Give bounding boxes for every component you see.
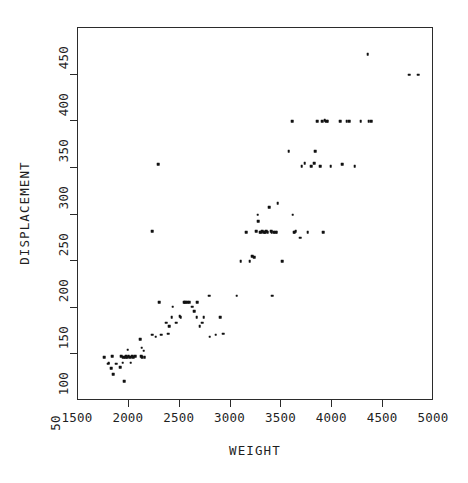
scatter-point xyxy=(168,325,171,328)
scatter-point xyxy=(183,301,186,304)
scatter-point xyxy=(249,260,252,263)
x-tick-label: 5000 xyxy=(418,410,449,425)
scatter-point xyxy=(239,260,242,263)
scatter-point xyxy=(292,231,295,234)
scatter-point xyxy=(266,231,269,234)
scatter-point xyxy=(293,231,296,234)
scatter-point xyxy=(253,256,256,259)
scatter-point xyxy=(208,335,211,338)
scatter-point xyxy=(171,306,174,309)
scatter-point xyxy=(300,165,303,168)
scatter-point xyxy=(294,230,297,233)
scatter-point xyxy=(291,213,294,216)
scatter-point xyxy=(299,237,302,240)
x-tick-label: 2500 xyxy=(163,410,194,425)
scatter-point xyxy=(119,366,122,369)
scatter-point xyxy=(417,73,420,76)
scatter-point xyxy=(179,316,182,319)
scatter-point xyxy=(165,321,168,324)
x-axis-title: WEIGHT xyxy=(229,443,281,458)
scatter-point xyxy=(208,294,211,297)
plot-area-frame xyxy=(77,27,433,400)
x-tick-label: 4500 xyxy=(367,410,398,425)
scatter-point xyxy=(130,361,133,364)
scatter-point xyxy=(260,231,263,234)
scatter-point xyxy=(198,325,201,328)
x-tick-mark xyxy=(280,399,281,407)
scatter-point xyxy=(128,355,131,358)
scatter-point xyxy=(196,301,199,304)
scatter-point xyxy=(316,120,319,123)
y-tick-label: 450 xyxy=(56,46,71,69)
scatter-point xyxy=(341,163,344,166)
scatter-point xyxy=(322,231,325,234)
scatter-point xyxy=(188,301,191,304)
scatter-point xyxy=(268,206,271,209)
scatter-point xyxy=(273,231,276,234)
y-tick-mark xyxy=(70,260,78,261)
scatter-point xyxy=(270,230,273,233)
scatter-point xyxy=(370,120,373,123)
scatter-point xyxy=(178,315,181,318)
scatter-point xyxy=(124,356,127,359)
scatter-point xyxy=(276,231,279,234)
scatter-point xyxy=(261,230,264,233)
x-tick-mark xyxy=(230,399,231,407)
scatter-point xyxy=(291,120,294,123)
x-tick-label: 1500 xyxy=(62,410,93,425)
scatter-point xyxy=(235,294,238,297)
scatter-point xyxy=(201,321,204,324)
scatter-point xyxy=(359,120,362,123)
scatter-point xyxy=(310,165,313,168)
scatter-point xyxy=(160,333,163,336)
scatter-point xyxy=(132,356,135,359)
scatter-point xyxy=(368,120,371,123)
scatter-point xyxy=(348,120,351,123)
scatter-point xyxy=(195,316,198,319)
scatter-point xyxy=(202,316,205,319)
scatter-point xyxy=(219,316,222,319)
x-tick-mark xyxy=(382,399,383,407)
scatter-point xyxy=(287,150,290,153)
scatter-point xyxy=(143,356,146,359)
scatter-point xyxy=(151,333,154,336)
scatter-point xyxy=(184,301,187,304)
scatter-point xyxy=(323,119,326,122)
scatter-point xyxy=(255,230,258,233)
scatter-plot-figure: 50100150200250300350400450 1500200025003… xyxy=(0,0,468,483)
scatter-point xyxy=(245,231,248,234)
y-tick-mark xyxy=(70,214,78,215)
scatter-point xyxy=(125,355,128,358)
scatter-point xyxy=(139,338,142,341)
scatter-point xyxy=(191,306,194,309)
scatter-point xyxy=(157,163,160,166)
scatter-point xyxy=(321,120,324,123)
scatter-point xyxy=(256,213,259,216)
scatter-point xyxy=(274,231,277,234)
y-axis-title: DISPLACEMENT xyxy=(17,161,32,265)
y-tick-label: 400 xyxy=(56,93,71,116)
x-tick-mark xyxy=(179,399,180,407)
scatter-point xyxy=(326,120,329,123)
x-tick-label: 3500 xyxy=(265,410,296,425)
y-tick-mark xyxy=(70,353,78,354)
scatter-point xyxy=(140,347,143,350)
scatter-point xyxy=(120,355,123,358)
scatter-point xyxy=(408,73,411,76)
scatter-point xyxy=(110,367,113,370)
scatter-point xyxy=(339,120,342,123)
y-tick-label: 350 xyxy=(56,139,71,162)
scatter-point xyxy=(353,165,356,168)
scatter-point xyxy=(123,380,126,383)
scatter-point xyxy=(127,348,130,351)
scatter-point xyxy=(251,255,254,258)
scatter-point xyxy=(186,301,189,304)
scatter-point xyxy=(131,355,134,358)
scatter-point xyxy=(158,301,161,304)
scatter-point xyxy=(107,362,110,365)
scatter-point xyxy=(126,356,129,359)
scatter-point xyxy=(277,202,280,205)
y-tick-mark xyxy=(70,120,78,121)
scatter-point xyxy=(129,356,132,359)
scatter-point xyxy=(263,231,266,234)
